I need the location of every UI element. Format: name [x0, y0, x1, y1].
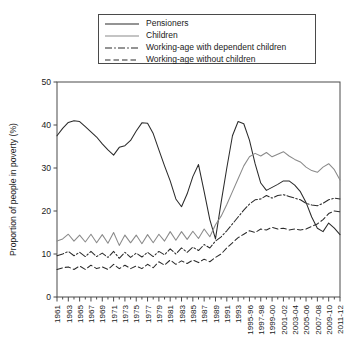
legend-item-working-age-with-dependent-children: Working-age with dependent children — [105, 42, 311, 53]
x-tick-label: 2003-04 — [291, 305, 300, 335]
legend-line-icon — [105, 32, 139, 40]
x-tick-label: 1985 — [189, 305, 198, 324]
legend-item-working-age-without-children: Working-age without children — [105, 54, 311, 65]
x-tick-label: 1977 — [144, 305, 153, 324]
x-tick-label: 2009-10 — [325, 305, 334, 335]
x-tick-label: 1967 — [87, 305, 96, 324]
series-line-working-age-without-children — [57, 211, 340, 269]
chart-figure: PensionersChildrenWorking-age with depen… — [0, 0, 360, 363]
x-tick-label: 1963 — [65, 305, 74, 324]
x-tick-label: 1999-00 — [268, 305, 277, 335]
x-tick-label: 1993 — [234, 305, 243, 324]
x-tick-label: 2001-02 — [280, 305, 289, 335]
legend-item-label: Working-age with dependent children — [146, 43, 286, 52]
series-line-pensioners — [57, 121, 340, 239]
plot-area: 01020304050Proportion of people in pover… — [0, 70, 360, 363]
x-tick-label: 1989 — [212, 305, 221, 324]
chart-legend: PensionersChildrenWorking-age with depen… — [98, 14, 316, 64]
plot-frame — [57, 82, 340, 297]
x-tick-label: 1987 — [200, 305, 209, 324]
x-tick-label: 1965 — [76, 305, 85, 324]
x-tick-label: 1975 — [132, 305, 141, 324]
legend-line-icon — [105, 56, 139, 64]
y-tick-label: 40 — [41, 120, 51, 130]
x-tick-label: 1983 — [178, 305, 187, 324]
legend-line-icon — [105, 20, 139, 28]
y-tick-label: 50 — [41, 77, 51, 87]
x-tick-label: 2007-08 — [314, 305, 323, 335]
x-tick-label: 1971 — [110, 305, 119, 324]
y-tick-label: 10 — [41, 249, 51, 259]
y-tick-label: 30 — [41, 163, 51, 173]
x-tick-label: 1961 — [53, 305, 62, 324]
x-tick-label: 1969 — [98, 305, 107, 324]
legend-item-label: Pensioners — [146, 19, 189, 28]
x-tick-label: 1979 — [155, 305, 164, 324]
x-tick-label: 1981 — [166, 305, 175, 324]
legend-item-label: Working-age without children — [146, 55, 255, 64]
y-axis-title: Proportion of people in poverty (%) — [8, 123, 18, 256]
x-tick-label: 2011-12 — [336, 305, 345, 335]
x-tick-label: 1997-98 — [257, 305, 266, 335]
legend-line-icon — [105, 44, 139, 52]
y-tick-label: 0 — [46, 292, 51, 302]
legend-item-children: Children — [105, 30, 311, 41]
x-tick-label: 1991 — [223, 305, 232, 324]
y-tick-label: 20 — [41, 206, 51, 216]
legend-item-pensioners: Pensioners — [105, 18, 311, 29]
line-chart-svg: 01020304050Proportion of people in pover… — [0, 70, 360, 363]
x-tick-label: 1973 — [121, 305, 130, 324]
series-line-working-age-with-dependent-children — [57, 195, 340, 259]
x-tick-label: 2005-06 — [302, 305, 311, 335]
x-tick-label: 1995-96 — [246, 305, 255, 335]
legend-item-label: Children — [146, 31, 178, 40]
